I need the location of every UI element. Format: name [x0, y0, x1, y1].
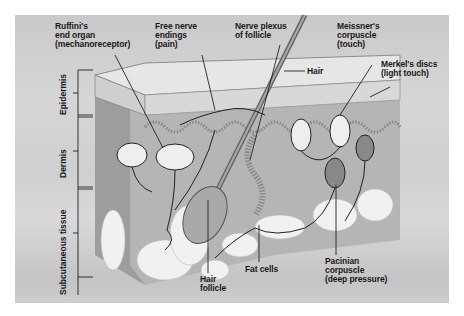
label-ruffini-end-organ: Ruffini's end organ (mechanoreceptor): [55, 22, 130, 49]
label-fat-cells: Fat cells: [245, 265, 278, 274]
label-nerve-plexus: Nerve plexus of follicle: [235, 22, 287, 40]
layer-label-dermis: Dermis: [58, 149, 68, 178]
label-pacinian-corpuscle: Pacinian corpuscle (deep pressure): [325, 257, 387, 284]
label-meissner-corpuscle: Meissner's corpuscle (touch): [337, 22, 380, 49]
ruffini-organ-2: [156, 144, 194, 170]
diagram-frame: Ruffini's end organ (mechanoreceptor) Fr…: [15, 15, 449, 303]
pacinian-corpuscle-2: [356, 135, 374, 161]
ruffini-organ-1: [117, 143, 147, 167]
meissner-corpuscle-2: [330, 115, 350, 147]
layer-label-epidermis: Epidermis: [58, 74, 68, 115]
pacinian-corpuscle-1: [325, 158, 345, 188]
label-hair-follicle: Hair follicle: [200, 275, 226, 293]
label-merkel-discs: Merkel's discs (light touch): [381, 60, 437, 78]
label-hair: Hair: [307, 67, 323, 76]
meissner-corpuscle-1: [291, 119, 311, 151]
label-free-nerve-endings: Free nerve endings (pain): [155, 22, 197, 49]
layer-label-subcutaneous: Subcutaneous tissue: [58, 210, 68, 296]
layer-brackets: [73, 70, 93, 295]
